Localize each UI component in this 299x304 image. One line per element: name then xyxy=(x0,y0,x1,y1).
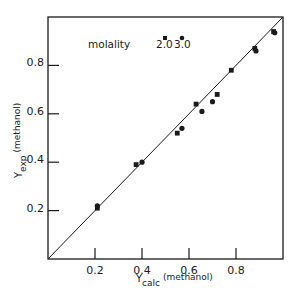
x-tick-label: 0.8 xyxy=(227,264,245,277)
square-marker-icon xyxy=(215,92,220,97)
x-tick-label: 0.2 xyxy=(86,264,104,277)
square-marker-icon xyxy=(175,131,180,136)
square-marker-icon xyxy=(229,68,234,73)
y-label-subscript: exp xyxy=(18,155,28,172)
circle-marker-icon xyxy=(199,109,204,114)
reference-line-y-equals-x xyxy=(48,17,283,259)
x-label-suffix: (methanol) xyxy=(163,272,213,282)
y-tick-label: 0.4 xyxy=(27,153,45,166)
circle-marker-icon xyxy=(272,30,277,35)
square-marker-icon xyxy=(134,162,139,167)
scatter-chart: 0.20.40.60.80.20.40.60.8 molality 2.0 3.… xyxy=(0,0,299,304)
square-marker-icon xyxy=(194,102,199,107)
circle-marker-icon xyxy=(95,203,100,208)
legend-title: molality xyxy=(88,38,130,50)
y-tick-label: 0.2 xyxy=(27,202,45,215)
y-tick-label: 0.8 xyxy=(27,56,45,69)
y-tick-label: 0.6 xyxy=(27,105,45,118)
circle-marker-icon xyxy=(210,99,215,104)
legend-label-3-0: 3.0 xyxy=(174,38,191,50)
circle-marker-icon xyxy=(139,160,144,165)
circle-marker-icon xyxy=(179,126,184,131)
diagonal-line xyxy=(48,17,283,259)
y-label-suffix: (methanol) xyxy=(12,103,22,153)
legend-label-2-0: 2.0 xyxy=(156,38,173,50)
legend: molality 2.0 3.0 xyxy=(88,36,191,50)
circle-marker-icon xyxy=(253,48,258,53)
x-label-subscript: calc xyxy=(142,278,160,288)
